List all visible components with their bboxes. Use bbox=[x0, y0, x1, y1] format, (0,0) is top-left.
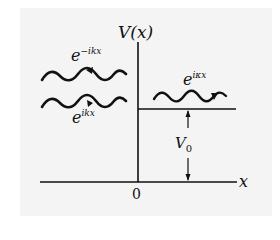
y-axis-label: V(x) bbox=[118, 22, 153, 42]
arrow-down-icon bbox=[186, 174, 191, 181]
v0-label: V0 bbox=[175, 134, 192, 154]
arrow-right-icon bbox=[87, 100, 93, 107]
incident-wave bbox=[42, 95, 126, 107]
x-axis-label: x bbox=[239, 172, 248, 191]
incident-wave-label: eikx bbox=[72, 108, 95, 127]
v0-base: V bbox=[175, 134, 186, 152]
arrow-up-icon bbox=[186, 110, 191, 117]
origin-label: 0 bbox=[132, 186, 141, 202]
reflected-wave bbox=[42, 68, 126, 80]
v0-sub: 0 bbox=[186, 143, 192, 154]
transmitted-wave-label: eiκx bbox=[183, 70, 206, 89]
label-exponent: ikx bbox=[81, 108, 94, 118]
label-exponent: −ikx bbox=[80, 46, 101, 56]
reflected-wave-label: e−ikx bbox=[71, 46, 101, 65]
label-exponent: iκx bbox=[192, 70, 206, 80]
